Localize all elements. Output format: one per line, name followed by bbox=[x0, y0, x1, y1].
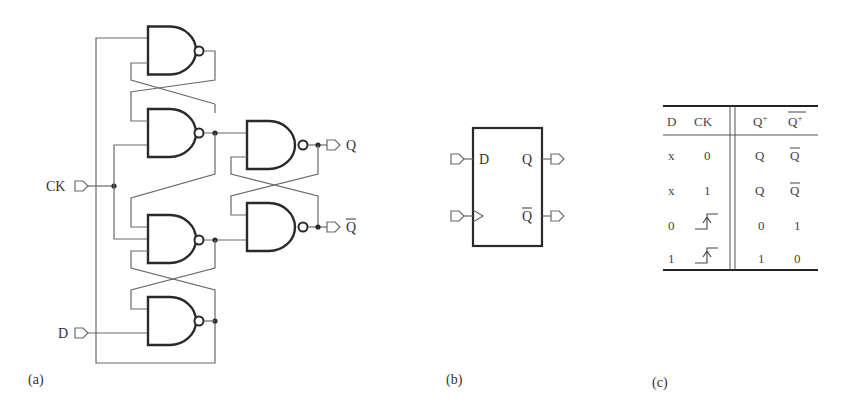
symbol-qbar-label: Q bbox=[522, 209, 532, 224]
symbol-d-label: D bbox=[479, 152, 489, 167]
caption-b: (b) bbox=[446, 372, 463, 388]
nand-gate-1 bbox=[148, 27, 204, 75]
d-label: D bbox=[58, 326, 68, 341]
nand-gate-6 bbox=[247, 203, 308, 251]
svg-text:Q: Q bbox=[755, 183, 765, 198]
nand-gate-2 bbox=[148, 109, 204, 157]
figure-canvas: CK D bbox=[0, 0, 858, 418]
header-qbarplus: Q+ bbox=[788, 113, 802, 129]
qbar-output-port: Q bbox=[327, 219, 356, 235]
qbar-label: Q bbox=[346, 220, 356, 235]
header-qplus: Q+ bbox=[753, 113, 767, 129]
circuit-panel-a: CK D bbox=[28, 27, 356, 389]
ck-input-port: CK bbox=[46, 179, 88, 194]
svg-text:0: 0 bbox=[794, 251, 801, 266]
caption-a: (a) bbox=[28, 372, 44, 388]
svg-text:x: x bbox=[668, 148, 675, 163]
table-row: 1 1 0 bbox=[668, 248, 801, 266]
svg-text:0: 0 bbox=[758, 218, 765, 233]
truth-table-panel-c: D CK Q+ Q+ x 0 Q Q x 1 Q Q 0 0 1 1 bbox=[652, 106, 818, 391]
table-row: x 0 Q Q bbox=[668, 148, 800, 163]
q-label: Q bbox=[346, 138, 356, 153]
header-ck: CK bbox=[694, 114, 713, 129]
header-d: D bbox=[667, 114, 676, 129]
svg-text:1: 1 bbox=[758, 251, 765, 266]
nand-gate-5 bbox=[247, 121, 308, 169]
svg-text:Q: Q bbox=[790, 183, 800, 198]
d-input-port: D bbox=[58, 326, 88, 341]
svg-text:x: x bbox=[668, 183, 675, 198]
caption-c: (c) bbox=[652, 375, 668, 391]
svg-text:Q: Q bbox=[790, 148, 800, 163]
symbol-panel-b: D Q Q (b) bbox=[446, 128, 564, 388]
svg-text:1: 1 bbox=[668, 251, 675, 266]
svg-text:0: 0 bbox=[704, 148, 711, 163]
ck-label: CK bbox=[46, 179, 65, 194]
table-row: x 1 Q Q bbox=[668, 183, 800, 198]
svg-text:1: 1 bbox=[704, 183, 711, 198]
q-output-port: Q bbox=[327, 138, 356, 153]
nand-gate-4 bbox=[148, 297, 204, 345]
svg-text:Q: Q bbox=[755, 148, 765, 163]
junction-dot bbox=[315, 224, 320, 229]
flipflop-box bbox=[473, 128, 542, 246]
svg-text:0: 0 bbox=[668, 218, 675, 233]
rising-edge-icon bbox=[695, 214, 718, 229]
nand-gate-3 bbox=[148, 215, 204, 263]
svg-text:1: 1 bbox=[794, 218, 801, 233]
symbol-q-label: Q bbox=[522, 152, 532, 167]
table-row: 0 0 1 bbox=[668, 214, 801, 233]
rising-edge-icon bbox=[695, 248, 718, 263]
